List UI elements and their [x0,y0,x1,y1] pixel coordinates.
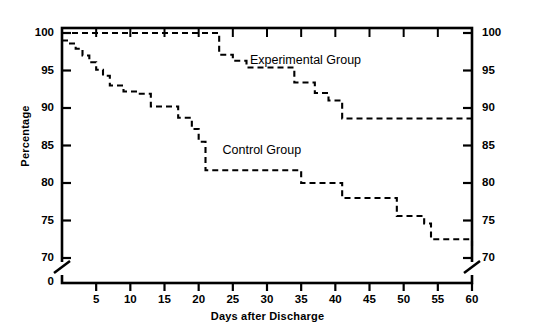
y-tick-left-0: 0 [20,276,54,288]
series-label-control-group: Control Group [223,144,302,157]
x-tick-50: 50 [387,294,421,306]
series-label-experimental-group: Experimental Group [250,54,361,67]
y-tick-right-80: 80 [482,177,516,189]
x-tick-45: 45 [353,294,387,306]
y-tick-left-90: 90 [20,102,54,114]
x-tick-35: 35 [284,294,318,306]
y-tick-left-80: 80 [20,177,54,189]
y-tick-left-95: 95 [20,65,54,77]
x-tick-60: 60 [455,294,489,306]
x-tick-25: 25 [216,294,250,306]
y-tick-right-100: 100 [482,27,516,39]
y-tick-left-100: 100 [20,27,54,39]
y-tick-right-85: 85 [482,140,516,152]
x-tick-55: 55 [421,294,455,306]
y-tick-left-70: 70 [20,252,54,264]
x-tick-40: 40 [318,294,352,306]
y-tick-right-75: 75 [482,215,516,227]
y-tick-right-95: 95 [482,65,516,77]
x-tick-20: 20 [182,294,216,306]
y-tick-left-85: 85 [20,140,54,152]
x-tick-30: 30 [250,294,284,306]
plot-area [0,0,535,336]
x-tick-5: 5 [79,294,113,306]
chart-figure: Percentage Days after Discharge 70758085… [0,0,535,336]
x-tick-15: 15 [148,294,182,306]
y-tick-right-70: 70 [482,252,516,264]
y-tick-right-90: 90 [482,102,516,114]
x-tick-10: 10 [113,294,147,306]
y-tick-left-75: 75 [20,215,54,227]
